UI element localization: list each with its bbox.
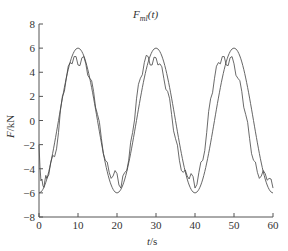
y-tick-label: −2 (23, 139, 35, 151)
y-tick-label: 2 (30, 90, 36, 102)
svg-text:F/kN: F/kN (4, 115, 16, 139)
x-tick-label: 40 (190, 219, 202, 231)
y-tick-label: 4 (30, 66, 36, 78)
series-measured (39, 55, 273, 188)
axes (39, 24, 273, 217)
x-tick-label: 50 (229, 219, 241, 231)
series-theoretical (39, 48, 273, 193)
x-tick-label: 30 (151, 219, 163, 231)
x-tick-label: 20 (112, 219, 124, 231)
y-tick-label: 0 (30, 115, 36, 127)
svg-text:t/s: t/s (147, 235, 157, 247)
plot-area (39, 48, 273, 193)
x-tick-label: 60 (268, 219, 280, 231)
x-axis-label: t/s (147, 235, 157, 247)
y-tick-label: 6 (30, 42, 36, 54)
chart-title: Fml(t) (132, 8, 158, 23)
svg-text:Fml(t): Fml(t) (132, 8, 158, 23)
x-tick-label: 10 (73, 219, 85, 231)
y-tick-label: 8 (30, 18, 36, 30)
x-tick-label: 0 (36, 219, 42, 231)
x-axis-ticks: 0102030405060 (36, 213, 279, 231)
y-tick-label: −8 (23, 211, 35, 223)
y-tick-label: −4 (23, 163, 35, 175)
chart: Fml(t) −8−6−4−202468 0102030405060 F/kN … (0, 0, 288, 251)
y-axis-label: F/kN (4, 115, 16, 139)
y-tick-label: −6 (23, 187, 35, 199)
